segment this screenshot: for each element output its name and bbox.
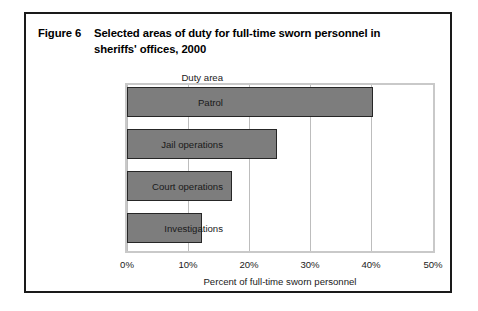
chart-area: Duty area xyxy=(26,14,454,295)
xtick-label-10: 10% xyxy=(168,259,208,270)
figure-root: Figure 6Selected areas of duty for full-… xyxy=(0,0,478,311)
xtick-label-50: 50% xyxy=(413,259,453,270)
category-axis-header: Duty area xyxy=(71,72,223,83)
xtick-label-40: 40% xyxy=(351,259,391,270)
plot-frame: Duty area xyxy=(125,83,435,253)
xtick-label-30: 30% xyxy=(290,259,330,270)
category-label-court-operations: Court operations xyxy=(73,181,223,192)
category-labels: Patrol Jail operations Court operations … xyxy=(71,85,223,255)
xtick-label-0: 0% xyxy=(107,259,147,270)
category-label-patrol: Patrol xyxy=(73,97,223,108)
x-axis-title: Percent of full-time sworn personnel xyxy=(125,276,435,288)
category-label-jail-operations: Jail operations xyxy=(73,139,223,150)
category-label-investigations: Investigations xyxy=(73,223,223,234)
figure-framed-box: Figure 6Selected areas of duty for full-… xyxy=(24,12,452,293)
xtick-label-20: 20% xyxy=(229,259,269,270)
